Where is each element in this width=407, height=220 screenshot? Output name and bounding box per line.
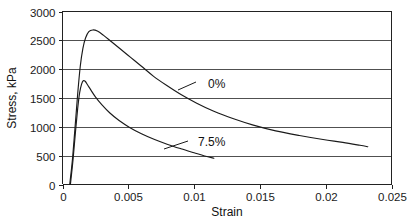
series-curves [70, 30, 368, 185]
series-annotation-label: 7.5% [198, 135, 226, 149]
x-axis-title: Strain [211, 205, 242, 219]
y-tick-label: 3000 [30, 7, 56, 19]
x-tick-label: 0.005 [114, 191, 143, 203]
x-tick-label: 0.01 [183, 191, 205, 203]
x-axis-ticks: 00.0050.010.0150.020.025 [60, 185, 407, 203]
series-annotation-label: 0% [208, 77, 226, 91]
annotation-leader-line [178, 82, 196, 90]
annotation-leader-line [164, 141, 188, 149]
y-tick-label: 1000 [30, 122, 56, 134]
series-curve-0 [70, 30, 368, 185]
chart-canvas: 050010001500200025003000 00.0050.010.015… [0, 0, 407, 220]
series-curve-75 [70, 80, 213, 184]
y-tick-label: 2500 [30, 35, 56, 47]
grid-lines [63, 41, 392, 157]
x-tick-label: 0 [60, 191, 66, 203]
y-axis-title: Stress, kPa [5, 67, 19, 129]
x-tick-label: 0.015 [246, 191, 275, 203]
stress-strain-chart: 050010001500200025003000 00.0050.010.015… [0, 0, 407, 220]
plot-frame [63, 11, 393, 185]
x-tick-label: 0.02 [315, 191, 337, 203]
y-tick-label: 500 [36, 151, 55, 163]
y-tick-label: 2000 [30, 64, 56, 76]
y-axis-ticks: 050010001500200025003000 [30, 7, 63, 192]
x-tick-label: 0.025 [378, 191, 407, 203]
y-tick-label: 0 [49, 180, 55, 192]
series-annotations: 0%7.5% [164, 77, 226, 149]
y-tick-label: 1500 [30, 93, 56, 105]
